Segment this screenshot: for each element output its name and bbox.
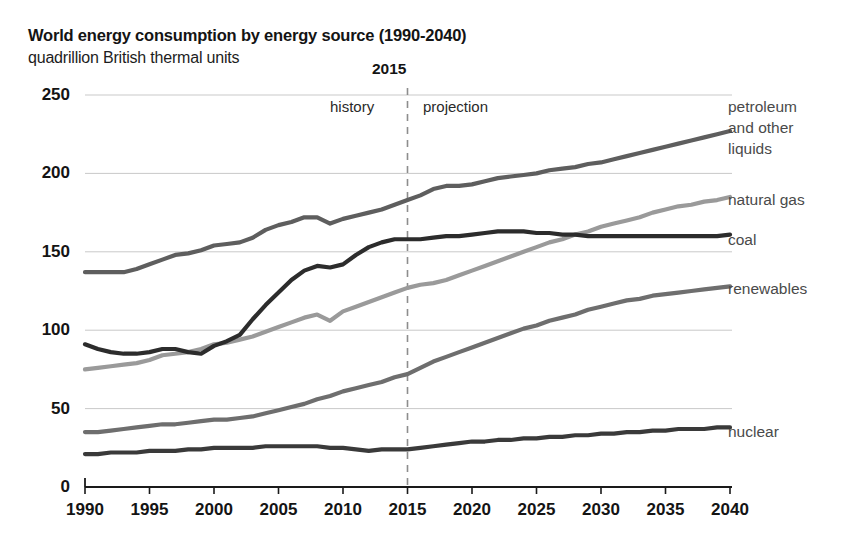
x-tick-label-2035: 2035 <box>647 500 685 520</box>
series-label-coal: coal <box>728 229 756 250</box>
x-tick-label-2015: 2015 <box>389 500 427 520</box>
x-tick-label-1990: 1990 <box>66 500 104 520</box>
y-tick-label-150: 150 <box>18 242 70 262</box>
series-line-renewables <box>85 286 730 432</box>
y-tick-label-50: 50 <box>18 399 70 419</box>
series-label-renewables: renewables <box>728 278 807 299</box>
series-label-nuclear: nuclear <box>728 421 779 442</box>
x-tick-label-2000: 2000 <box>195 500 233 520</box>
series-label-natural-gas: natural gas <box>728 189 805 210</box>
x-tick-label-2025: 2025 <box>518 500 556 520</box>
x-tick-label-2030: 2030 <box>582 500 620 520</box>
series-label-petroleum-line2: and other <box>728 117 797 138</box>
series-label-petroleum-line3: liquids <box>728 138 797 159</box>
chart-figure: World energy consumption by energy sourc… <box>0 0 862 555</box>
x-tick-label-1995: 1995 <box>131 500 169 520</box>
y-tick-label-250: 250 <box>18 85 70 105</box>
y-tick-label-100: 100 <box>18 320 70 340</box>
y-tick-label-200: 200 <box>18 163 70 183</box>
series-label-petroleum-line1: petroleum <box>728 96 797 117</box>
x-tick-label-2020: 2020 <box>453 500 491 520</box>
series-label-petroleum: petroleum and other liquids <box>728 96 797 159</box>
x-tick-label-2040: 2040 <box>711 500 749 520</box>
series-line-petroleum-and-other-liquids <box>85 131 730 272</box>
x-tick-label-2005: 2005 <box>260 500 298 520</box>
y-tick-label-0: 0 <box>18 477 70 497</box>
x-tick-label-2010: 2010 <box>324 500 362 520</box>
